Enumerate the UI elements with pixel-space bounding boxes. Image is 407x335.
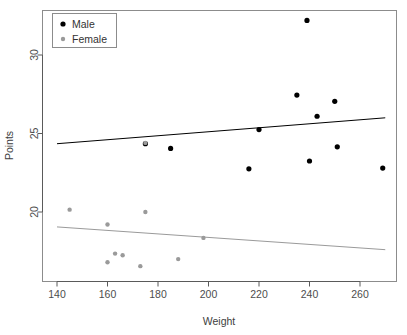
y-tick-label: 20 [28,206,40,218]
x-tick-label: 180 [149,288,167,300]
plot-area-border [43,11,397,282]
data-point-male [168,146,173,151]
data-point-female [120,253,124,257]
data-point-male [335,144,340,149]
data-point-male [256,127,261,132]
data-point-male [307,158,312,163]
data-point-male [314,114,319,119]
scatter-plot-figure: 202530140160180200220240260WeightPointsM… [0,0,407,335]
x-tick-label: 240 [301,288,319,300]
data-point-female [143,210,147,214]
data-point-female [105,260,109,264]
data-point-male [304,18,309,23]
regression-line-male [57,118,385,144]
x-tick-label: 260 [351,288,369,300]
data-point-male [294,92,299,97]
data-point-male [246,166,251,171]
legend-label-female: Female [72,33,107,45]
x-tick-label: 220 [250,288,268,300]
legend-label-male: Male [72,18,95,30]
x-axis-title: Weight [203,315,236,327]
x-tick-label: 160 [99,288,117,300]
data-point-male [380,165,385,170]
x-tick-label: 140 [48,288,66,300]
y-axis-title: Points [3,131,15,160]
data-point-female [201,236,205,240]
data-point-female [67,207,71,211]
chart-canvas: 202530140160180200220240260WeightPointsM… [0,0,407,335]
data-point-female [113,251,117,255]
x-tick-label: 200 [200,288,218,300]
data-point-female [143,141,147,145]
legend-marker-female [61,37,65,41]
regression-line-female [57,227,385,250]
data-point-female [138,264,142,268]
data-point-female [105,222,109,226]
legend-marker-male [60,21,65,26]
data-point-male [332,99,337,104]
data-point-female [176,257,180,261]
y-tick-label: 25 [28,128,40,140]
y-tick-label: 30 [28,49,40,61]
